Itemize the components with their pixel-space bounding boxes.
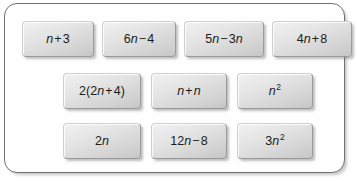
tile-panel: n+3 6n−4 5n−3n 4n+8 2(2n+4) n+n n2	[4, 3, 345, 173]
tile-row-2: 2(2n+4) n+n n2	[63, 73, 313, 109]
operator: +	[54, 32, 61, 46]
expression-text: n+n	[177, 85, 201, 98]
operand: 8	[201, 134, 208, 148]
expression-tile-n-squared[interactable]: n2	[237, 73, 313, 109]
operator: +	[312, 32, 319, 46]
algebra-tiles-screenshot: n+3 6n−4 5n−3n 4n+8 2(2n+4) n+n n2	[0, 0, 357, 181]
operand-coefficient: 3	[229, 32, 236, 46]
coefficient: 2	[95, 134, 102, 148]
expression-text: n+3	[46, 33, 70, 46]
expression-tile-n-plus-3[interactable]: n+3	[22, 21, 94, 57]
expression-tile-2-times-2n-plus-4[interactable]: 2(2n+4)	[63, 73, 141, 109]
variable: n	[46, 32, 53, 46]
expression-text: 3n2	[265, 135, 284, 148]
coefficient: 6	[124, 32, 131, 46]
variable: n	[131, 32, 138, 46]
variable: n	[269, 84, 276, 98]
coefficient: 4	[297, 32, 304, 46]
operator: +	[105, 84, 112, 98]
tile-row-1: n+3 6n−4 5n−3n 4n+8	[22, 21, 352, 57]
variable: n	[304, 32, 311, 46]
expression-text: 6n−4	[124, 33, 155, 46]
variable: n	[272, 134, 279, 148]
operator: −	[220, 32, 227, 46]
expression-text: 12n−8	[170, 135, 208, 148]
operator: −	[192, 134, 199, 148]
operand-variable: n	[236, 32, 243, 46]
expression-tile-12n-minus-8[interactable]: 12n−8	[151, 123, 227, 159]
variable: n	[184, 134, 191, 148]
operand: 3	[63, 32, 70, 46]
variable: n	[97, 84, 104, 98]
expression-tile-6n-minus-4[interactable]: 6n−4	[102, 21, 176, 57]
expression-tile-2n[interactable]: 2n	[63, 123, 141, 159]
expression-text: 5n−3n	[205, 33, 243, 46]
expression-tile-n-plus-n[interactable]: n+n	[151, 73, 227, 109]
variable: n	[177, 84, 184, 98]
operand-and-paren: 4)	[114, 84, 125, 98]
operand-variable: n	[194, 84, 201, 98]
expression-tile-4n-plus-8[interactable]: 4n+8	[272, 21, 352, 57]
expression-tile-3n-squared[interactable]: 3n2	[237, 123, 313, 159]
operator: −	[139, 32, 146, 46]
expression-text: n2	[269, 85, 281, 98]
coefficient: 12	[170, 134, 184, 148]
exponent: 2	[280, 132, 285, 142]
expression-text: 2(2n+4)	[79, 85, 125, 98]
operand: 8	[320, 32, 327, 46]
expression-tile-5n-minus-3n[interactable]: 5n−3n	[184, 21, 264, 57]
expression-text: 4n+8	[297, 33, 328, 46]
operator: +	[185, 84, 192, 98]
expression-text: 2n	[95, 135, 109, 148]
coefficient-and-paren: 2(2	[79, 84, 97, 98]
variable: n	[212, 32, 219, 46]
variable: n	[102, 134, 109, 148]
operand: 4	[147, 32, 154, 46]
tile-row-3: 2n 12n−8 3n2	[63, 123, 313, 159]
exponent: 2	[276, 82, 281, 92]
